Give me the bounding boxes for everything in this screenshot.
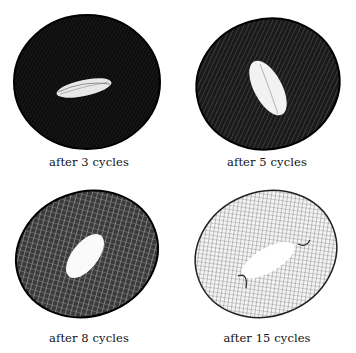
panel-8-cycles: after 8 cycles [0,176,178,352]
caption: after 5 cycles [178,155,356,169]
torus-3-cycles-image [0,0,178,176]
caption: after 3 cycles [0,155,178,169]
torus-15-cycles-image [178,176,356,353]
panel-5-cycles: after 5 cycles [178,0,356,176]
torus-5-cycles-image [178,0,356,176]
panel-3-cycles: after 3 cycles [0,0,178,176]
torus-8-cycles-image [0,176,178,353]
panel-15-cycles: after 15 cycles [178,176,356,352]
caption: after 15 cycles [178,331,356,345]
caption: after 8 cycles [0,331,178,345]
